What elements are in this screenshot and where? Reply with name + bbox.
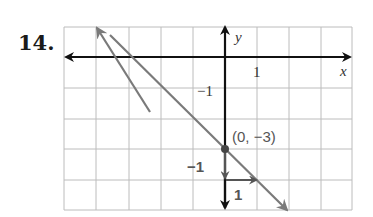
rise-label: −1 bbox=[187, 158, 204, 175]
y-tick-neg-one: −1 bbox=[197, 83, 213, 99]
run-label: 1 bbox=[234, 186, 242, 203]
graphed-line-lower bbox=[110, 35, 287, 210]
point-label: (0, −3) bbox=[232, 128, 276, 145]
graphed-line bbox=[97, 28, 150, 112]
x-tick-one: 1 bbox=[253, 64, 261, 80]
x-axis-label: x bbox=[339, 63, 347, 79]
y-intercept-point bbox=[221, 145, 229, 153]
y-axis-label: y bbox=[233, 29, 242, 45]
grid bbox=[64, 27, 352, 210]
coordinate-graph: y x 1 −1 (0, −3) −1 1 bbox=[0, 0, 373, 217]
